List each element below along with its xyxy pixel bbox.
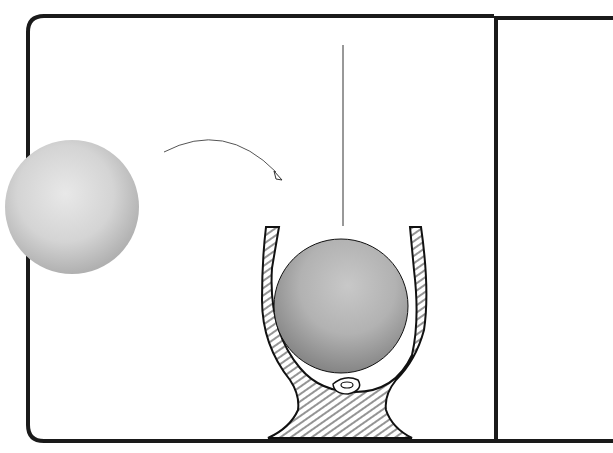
left-sphere xyxy=(5,140,139,274)
suspended-sphere xyxy=(274,239,408,373)
illustration xyxy=(0,0,613,453)
arrow-head-icon xyxy=(274,171,282,180)
curved-arrow xyxy=(164,140,276,172)
right-panel-frame xyxy=(494,18,613,441)
